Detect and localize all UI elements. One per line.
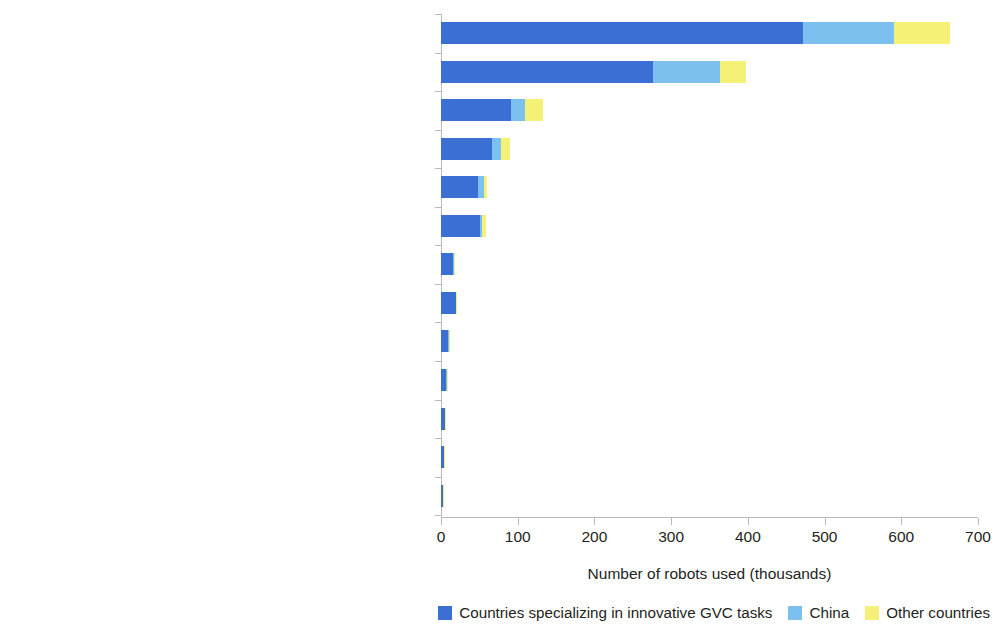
bar-segment[interactable] [653,61,721,83]
x-axis-tick-label: 100 [483,528,553,546]
legend-item[interactable]: Other countries [865,604,990,621]
x-axis-tick-label: 600 [866,528,936,546]
bar-segment[interactable] [803,22,894,44]
chart-category-row: Petroleum, chemical, and pharmaceutical … [441,284,978,323]
y-axis-tick [435,477,441,478]
y-axis-tick [435,438,441,439]
y-axis-tick [435,130,441,131]
x-axis-tick-label: 400 [713,528,783,546]
stacked-bar[interactable] [441,176,487,198]
stacked-bar[interactable] [441,138,510,160]
y-axis-tick [435,245,441,246]
y-axis-tick [435,361,441,362]
bar-segment[interactable] [456,292,457,314]
x-axis-tick [825,518,826,525]
plot-area: Motor vehicles, trailers, and semitraile… [441,14,978,515]
y-axis-tick [435,515,441,516]
x-axis-tick [748,518,749,525]
chart-category-row: Other nonmetallic mineral products [441,322,978,361]
stacked-bar[interactable] [441,99,543,121]
bar-segment[interactable] [482,215,487,237]
x-axis-tick [671,518,672,525]
stacked-bar[interactable] [441,369,448,391]
legend-color-swatch [788,606,802,620]
y-axis-tick [435,207,441,208]
chart-category-row: Food products, beverages, and tobacco [441,207,978,246]
stacked-bar[interactable] [441,485,443,507]
bar-segment[interactable] [441,215,480,237]
legend-item[interactable]: China [788,604,849,621]
bar-segment[interactable] [441,292,456,314]
bar-segment[interactable] [441,176,478,198]
y-axis-tick [435,168,441,169]
x-axis-tick [901,518,902,525]
bar-segment[interactable] [454,253,455,275]
legend-item[interactable]: Countries specializing in innovative GVC… [438,604,772,621]
legend-color-swatch [865,606,879,620]
bar-segment[interactable] [484,176,487,198]
stacked-bar[interactable] [441,408,445,430]
bar-segment[interactable] [720,61,745,83]
chart-category-row: Computer, electronic, and electrical equ… [441,53,978,92]
chart-category-row: Paper products and printing [441,438,978,477]
chart-category-row: Fabricated metal products [441,130,978,169]
y-axis-tick [435,322,441,323]
bar-segment[interactable] [441,138,492,160]
legend-color-swatch [438,606,452,620]
chart-category-row: Rubber and plastic products [441,91,978,130]
chart-legend: Countries specializing in innovative GVC… [0,604,996,621]
chart-category-row: Textiles, wearing apparel, leather and r… [441,477,978,516]
x-axis-line [441,517,978,518]
x-axis-tick-label: 300 [636,528,706,546]
x-axis-tick-label: 200 [559,528,629,546]
x-axis-title: Number of robots used (thousands) [441,565,978,583]
chart-category-row: Wood and products of wood and cork [441,400,978,439]
chart-category-row: Basic metals [441,245,978,284]
stacked-bar[interactable] [441,61,746,83]
x-axis-tick [978,518,979,525]
legend-label: Other countries [886,604,990,621]
x-axis-tick-label: 700 [943,528,996,546]
y-axis-tick [435,53,441,54]
bar-segment[interactable] [441,99,511,121]
y-axis-tick [435,400,441,401]
bar-segment[interactable] [511,99,526,121]
x-axis-tick [518,518,519,525]
bar-segment[interactable] [525,99,543,121]
y-axis-tick [435,284,441,285]
y-axis-tick [435,14,441,15]
bar-segment[interactable] [441,253,453,275]
stacked-bar-chart: Motor vehicles, trailers, and semitraile… [0,0,996,628]
x-axis-tick-label: 0 [406,528,476,546]
bar-segment[interactable] [492,138,500,160]
x-axis-tick-label: 500 [790,528,860,546]
stacked-bar[interactable] [441,292,457,314]
chart-category-row: Machinery and equipment, n.e.c. [441,168,978,207]
stacked-bar[interactable] [441,22,950,44]
x-axis-tick [594,518,595,525]
bar-segment[interactable] [501,138,510,160]
y-axis-tick [435,91,441,92]
legend-label: China [809,604,849,621]
bar-segment[interactable] [441,330,448,352]
bar-segment[interactable] [441,61,653,83]
bar-segment[interactable] [894,22,950,44]
x-axis-tick [441,518,442,525]
stacked-bar[interactable] [441,253,455,275]
chart-category-row: Motor vehicles, trailers, and semitraile… [441,14,978,53]
bar-segment[interactable] [441,22,803,44]
legend-label: Countries specializing in innovative GVC… [459,604,772,621]
chart-category-row: Other transportation equipment [441,361,978,400]
stacked-bar[interactable] [441,446,445,468]
stacked-bar[interactable] [441,215,486,237]
stacked-bar[interactable] [441,330,449,352]
